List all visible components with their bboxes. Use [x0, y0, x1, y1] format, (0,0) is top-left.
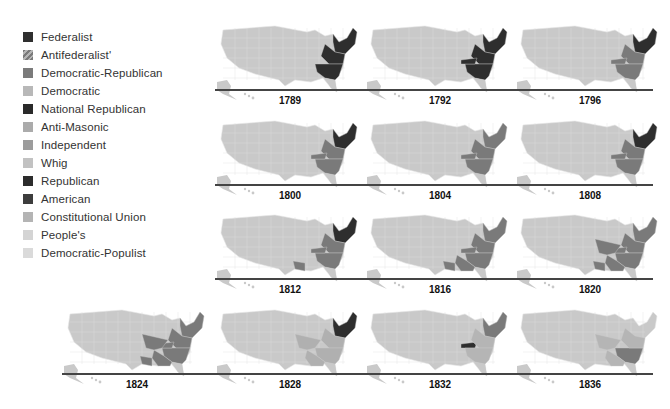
legend-label: Anti-Masonic [41, 121, 109, 133]
legend-label: American [41, 193, 90, 205]
election-map-1832: 1832 [365, 304, 515, 399]
legend-label: Antifederalist' [41, 49, 111, 61]
legend-swatch [23, 104, 33, 114]
election-map-1816: 1816 [365, 209, 515, 304]
timeline-line [62, 373, 653, 375]
legend-item: Republican [23, 172, 163, 190]
election-map-1792: 1792 [365, 20, 515, 115]
timeline-line [215, 89, 653, 91]
timeline-line [215, 278, 653, 280]
legend-label: Whig [41, 157, 68, 169]
year-label: 1792 [410, 95, 470, 106]
year-label: 1804 [410, 190, 470, 201]
legend-swatch [23, 86, 33, 96]
legend-item: Democratic [23, 82, 163, 100]
year-label: 1832 [410, 379, 470, 390]
legend-label: Republican [41, 175, 100, 187]
legend-swatch [23, 212, 33, 222]
legend-item: Democratic-Republican [23, 64, 163, 82]
legend-swatch [23, 158, 33, 168]
legend-label: Democratic [41, 85, 100, 97]
election-map-1820: 1820 [515, 209, 665, 304]
legend-item: Constitutional Union [23, 208, 163, 226]
year-label: 1836 [560, 379, 620, 390]
legend-item: Antifederalist' [23, 46, 163, 64]
legend-swatch [23, 194, 33, 204]
election-map-1812: 1812 [215, 209, 365, 304]
legend-label: Constitutional Union [41, 211, 146, 223]
election-map-1836: 1836 [515, 304, 665, 399]
legend-item: Independent [23, 136, 163, 154]
election-map-1800: 1800 [215, 115, 365, 210]
legend-swatch [23, 140, 33, 150]
election-map-1828: 1828 [215, 304, 365, 399]
year-label: 1820 [560, 284, 620, 295]
legend-swatch [23, 248, 33, 258]
legend-swatch [23, 122, 33, 132]
year-label: 1824 [107, 379, 167, 390]
year-label: 1816 [410, 284, 470, 295]
legend-swatch [23, 50, 33, 60]
election-map-1808: 1808 [515, 115, 665, 210]
year-label: 1800 [260, 190, 320, 201]
year-label: 1789 [260, 95, 320, 106]
election-map-1804: 1804 [365, 115, 515, 210]
legend-swatch [23, 32, 33, 42]
legend-label: People's [41, 229, 86, 241]
year-label: 1808 [560, 190, 620, 201]
legend-label: National Republican [41, 103, 146, 115]
legend-swatch [23, 230, 33, 240]
election-map-1824: 1824 [62, 304, 212, 399]
year-label: 1828 [260, 379, 320, 390]
legend: FederalistAntifederalist'Democratic-Repu… [23, 28, 163, 262]
legend-item: Whig [23, 154, 163, 172]
legend-swatch [23, 176, 33, 186]
legend-item: People's [23, 226, 163, 244]
legend-label: Democratic-Populist [41, 247, 146, 259]
legend-item: American [23, 190, 163, 208]
legend-item: Anti-Masonic [23, 118, 163, 136]
election-map-1789: 1789 [215, 20, 365, 115]
year-label: 1812 [260, 284, 320, 295]
year-label: 1796 [560, 95, 620, 106]
legend-label: Independent [41, 139, 106, 151]
legend-item: National Republican [23, 100, 163, 118]
legend-item: Federalist [23, 28, 163, 46]
legend-label: Democratic-Republican [41, 67, 163, 79]
timeline-line [215, 184, 653, 186]
election-map-1796: 1796 [515, 20, 665, 115]
legend-item: Democratic-Populist [23, 244, 163, 262]
legend-swatch [23, 68, 33, 78]
legend-label: Federalist [41, 31, 93, 43]
